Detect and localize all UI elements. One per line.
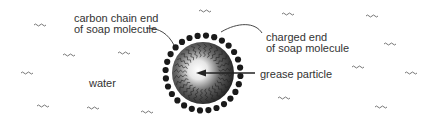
water-label: water — [89, 77, 116, 89]
charged-end-label-line2: of soap molecule — [266, 42, 349, 54]
soap-micelle-diagram: carbon chain end of soap molecule charge… — [0, 0, 435, 123]
grease-particle-label: grease particle — [260, 68, 332, 80]
charged-end-leader-line — [221, 25, 262, 33]
carbon-chain-label-line2: of soap molecule — [74, 23, 157, 35]
diagram-graphics — [0, 0, 435, 123]
